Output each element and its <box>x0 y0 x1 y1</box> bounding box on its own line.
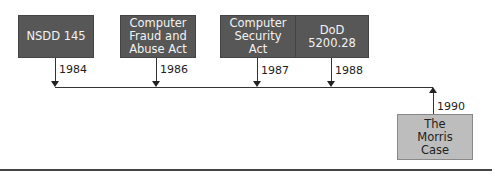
bottom-rule <box>0 169 492 171</box>
connector-1988 <box>331 58 332 82</box>
event-box-cfaa: Computer Fraud and Abuse Act <box>120 15 196 58</box>
event-box-csa: Computer Security Act <box>220 15 296 58</box>
event-label: DoD 5200.28 <box>307 24 357 50</box>
year-label: 1987 <box>261 64 289 77</box>
event-label: NSDD 145 <box>26 30 85 43</box>
connector-1984 <box>55 58 56 82</box>
event-label: Computer Security Act <box>224 17 292 56</box>
event-box-morris: The Morris Case <box>397 114 473 160</box>
year-label: 1984 <box>59 63 87 76</box>
event-box-nsdd145: NSDD 145 <box>18 15 94 58</box>
event-label: The Morris Case <box>406 118 464 157</box>
connector-1986 <box>156 58 157 82</box>
timeline-axis <box>55 87 433 88</box>
year-label: 1988 <box>335 64 363 77</box>
year-label: 1990 <box>437 100 465 113</box>
year-label: 1986 <box>160 63 188 76</box>
event-box-dod: DoD 5200.28 <box>295 15 369 58</box>
event-label: Computer Fraud and Abuse Act <box>123 17 193 56</box>
connector-1990 <box>433 92 434 114</box>
connector-1987 <box>257 58 258 82</box>
